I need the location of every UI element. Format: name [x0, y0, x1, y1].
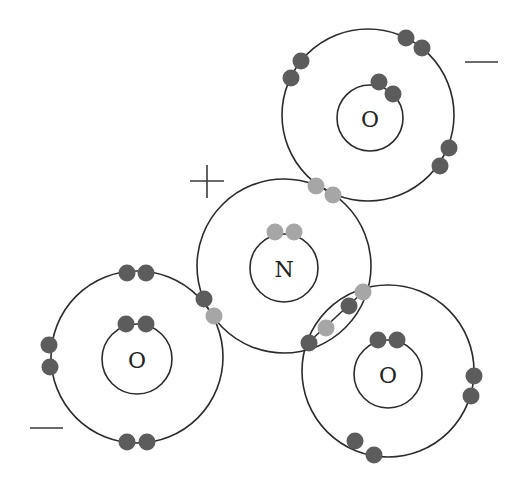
nitrogen-electron-dot [318, 320, 335, 337]
atom-label-o-left: O [128, 348, 146, 373]
atom-label-o-right: O [379, 363, 397, 388]
oxygen-electron-dot [138, 265, 155, 282]
oxygen-electron-dot [42, 359, 59, 376]
electrons [41, 30, 483, 464]
oxygen-electron-dot [41, 337, 58, 354]
atom-label-n-center: N [274, 257, 293, 282]
oxygen-electron-dot [398, 30, 415, 47]
oxygen-electron-dot [119, 265, 136, 282]
oxygen-electron-dot [301, 335, 318, 352]
oxygen-electron-dot [347, 433, 364, 450]
oxygen-electron-dot [341, 298, 358, 315]
electron-shells [51, 29, 474, 457]
atom-label-o-top: O [361, 107, 379, 132]
nitrogen-electron-dot [355, 284, 372, 301]
oxygen-electron-dot [466, 368, 483, 385]
oxygen-electron-dot [293, 53, 310, 70]
oxygen-electron-dot [138, 316, 155, 333]
nitrogen-electron-dot [325, 187, 342, 204]
oxygen-electron-dot [283, 70, 300, 87]
oxygen-electron-dot [139, 434, 156, 451]
nitrate-shell-diagram: ONOO [0, 0, 521, 480]
nitrogen-electron-dot [267, 224, 284, 241]
charge-signs [30, 62, 498, 428]
oxygen-electron-dot [385, 86, 402, 103]
oxygen-electron-dot [371, 74, 388, 91]
oxygen-electron-dot [414, 40, 431, 57]
oxygen-electron-dot [119, 434, 136, 451]
oxygen-electron-dot [463, 388, 480, 405]
oxygen-electron-dot [432, 158, 449, 175]
nitrogen-electron-dot [308, 178, 325, 195]
oxygen-electron-dot [389, 332, 406, 349]
nitrogen-electron-dot [206, 308, 223, 325]
oxygen-electron-dot [118, 316, 135, 333]
oxygen-electron-dot [441, 140, 458, 157]
oxygen-electron-dot [370, 332, 387, 349]
nitrogen-electron-dot [286, 224, 303, 241]
oxygen-electron-dot [196, 291, 213, 308]
oxygen-electron-dot [366, 447, 383, 464]
